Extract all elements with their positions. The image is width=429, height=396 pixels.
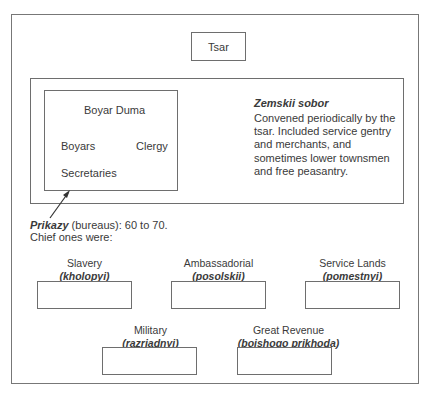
prikazy-count: (bureaus): 60 to 70.: [69, 219, 168, 231]
arrow-icon: [0, 0, 429, 396]
bureau-slavery-box: [37, 281, 132, 309]
bureau-military-label: Military (razriadnyi): [103, 324, 198, 349]
prikazy-term: Prikazy: [30, 219, 69, 231]
bureau-name: Slavery: [37, 257, 132, 270]
bureau-slavery-label: Slavery (kholopyi): [37, 257, 132, 282]
prikazy-line-2: Chief ones were:: [30, 231, 113, 244]
bureau-ambassadorial-label: Ambassadorial (posolskii): [171, 257, 266, 282]
bureau-name: Great Revenue: [226, 324, 351, 337]
bureau-ambassadorial-box: [171, 281, 266, 309]
bureau-name: Ambassadorial: [171, 257, 266, 270]
bureau-service-lands-box: [305, 281, 400, 309]
bureau-great-revenue-box: [237, 347, 332, 375]
bureau-name: Military: [103, 324, 198, 337]
bureau-great-revenue-label: Great Revenue (boishogo prikhoda): [226, 324, 351, 349]
bureau-name: Service Lands: [305, 257, 400, 270]
bureau-military-box: [102, 347, 197, 375]
bureau-service-lands-label: Service Lands (pomestnyi): [305, 257, 400, 282]
